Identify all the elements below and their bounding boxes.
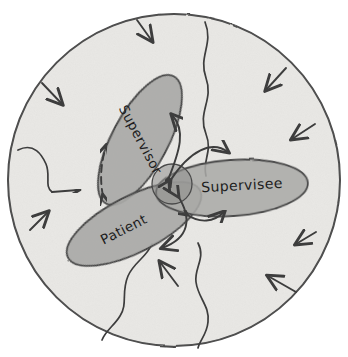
diagram-canvas: Supervisor Supervisee Patient xyxy=(0,0,348,357)
diagram-root: Supervisor Supervisee Patient xyxy=(0,0,348,357)
